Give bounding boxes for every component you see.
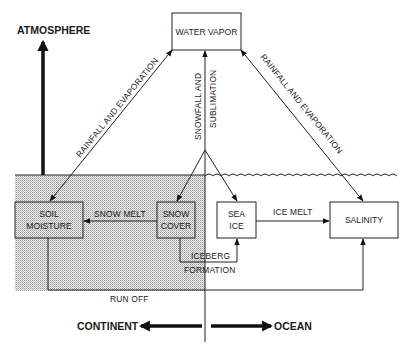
salinity-node: SALINITY <box>330 202 398 238</box>
snowfall-label-line2: SUBLIMATION <box>208 70 218 128</box>
svg-text:MOISTURE: MOISTURE <box>26 221 72 231</box>
svg-text:SNOW: SNOW <box>163 209 191 219</box>
snowfall-to-sea-ice-arrow <box>205 150 237 201</box>
rainfall-evaporation-left-label: RAINFALL AND EVAPORATION <box>74 56 161 160</box>
ocean-surface-wave <box>205 174 397 176</box>
hydrological-cycle-diagram: ATMOSPHERE WATER VAPOR RAINFALL AND EVAP… <box>0 0 411 347</box>
rainfall-evaporation-right-label: RAINFALL AND EVAPORATION <box>258 52 345 156</box>
svg-text:WATER VAPOR: WATER VAPOR <box>176 27 238 37</box>
snowfall-label-line1: SNOWFALL AND <box>193 73 203 140</box>
iceberg-label-line1: ICEBERG <box>191 251 230 261</box>
svg-text:COVER: COVER <box>161 221 192 231</box>
atmosphere-label: ATMOSPHERE <box>17 24 90 36</box>
svg-text:SALINITY: SALINITY <box>345 215 383 225</box>
run-off-label: RUN OFF <box>110 294 149 304</box>
soil-moisture-node: SOIL MOISTURE <box>15 202 83 238</box>
snow-melt-label: SNOW MELT <box>94 209 146 219</box>
continent-label: CONTINENT <box>77 320 139 332</box>
ice-melt-label: ICE MELT <box>273 207 313 217</box>
iceberg-label-line2: FORMATION <box>184 265 235 275</box>
ocean-label: OCEAN <box>274 320 312 332</box>
svg-text:SEA: SEA <box>228 209 245 219</box>
water-vapor-node: WATER VAPOR <box>172 13 241 50</box>
snow-cover-node: SNOW COVER <box>157 202 195 238</box>
svg-text:SOIL: SOIL <box>39 209 59 219</box>
svg-text:ICE: ICE <box>229 221 244 231</box>
sea-ice-node: SEA ICE <box>217 202 256 238</box>
rainfall-evaporation-right-arrow <box>241 50 363 201</box>
